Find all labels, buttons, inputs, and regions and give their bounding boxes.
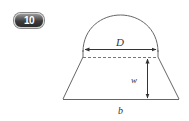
geometry-figure: D w b bbox=[0, 0, 189, 121]
width-label: w bbox=[131, 75, 137, 85]
base-label: b bbox=[118, 105, 123, 116]
trapezoid-left-side bbox=[63, 57, 83, 99]
diameter-label: D bbox=[115, 36, 124, 48]
trapezoid-right-side bbox=[158, 57, 179, 99]
